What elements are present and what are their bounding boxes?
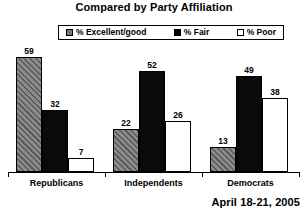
bar-republicans-excellent-good: 59 (16, 44, 42, 172)
bar-rect (68, 158, 94, 172)
axis-tick (105, 172, 106, 177)
bar-value: 7 (79, 147, 84, 157)
gray-hatched-swatch-icon (66, 29, 73, 36)
chart-title: Compared by Party Affiliation (0, 1, 308, 14)
category-label-independents: Independents (105, 178, 202, 189)
bar-democrats-fair: 49 (236, 44, 262, 172)
legend-label-poor: % Poor (247, 28, 276, 37)
bar-independents-excellent-good: 22 (113, 44, 139, 172)
bar-rect (236, 76, 262, 172)
axis-tick (8, 172, 9, 177)
bar-value: 26 (173, 110, 182, 120)
legend-label-excellent-good: % Excellent/good (76, 28, 146, 37)
legend-item-fair: % Fair (174, 28, 210, 37)
bar-democrats-poor: 38 (262, 44, 288, 172)
category-label-republicans: Republicans (8, 178, 105, 189)
category-label-democrats: Democrats (202, 178, 299, 189)
legend-item-excellent-good: % Excellent/good (66, 28, 146, 37)
bar-independents-fair: 52 (139, 44, 165, 172)
bar-rect (42, 110, 68, 172)
bar-rect (210, 147, 236, 172)
bar-rect (139, 71, 165, 172)
bar-rect (113, 129, 139, 172)
bar-republicans-fair: 32 (42, 44, 68, 172)
bar-value: 32 (50, 99, 59, 109)
bar-value: 22 (121, 118, 130, 128)
bar-rect (16, 57, 42, 172)
bar-rect (262, 98, 288, 172)
bar-value: 38 (270, 87, 279, 97)
bar-democrats-excellent-good: 13 (210, 44, 236, 172)
bar-independents-poor: 26 (165, 44, 191, 172)
plot-area: 59 32 7 22 52 (0, 44, 308, 173)
bar-value: 13 (218, 136, 227, 146)
black-solid-swatch-icon (174, 29, 181, 36)
bar-rect (165, 121, 191, 172)
axis-tick (299, 172, 300, 177)
bar-republicans-poor: 7 (68, 44, 94, 172)
x-axis-line (8, 172, 300, 173)
bar-value: 59 (24, 46, 33, 56)
legend-item-poor: % Poor (237, 28, 276, 37)
white-outline-swatch-icon (237, 29, 244, 36)
bar-value: 49 (244, 65, 253, 75)
survey-date-annotation: April 18-21, 2005 (211, 196, 300, 208)
bar-chart: Compared by Party Affiliation % Excellen… (0, 0, 308, 213)
axis-tick (202, 172, 203, 177)
legend-label-fair: % Fair (184, 28, 210, 37)
chart-legend: % Excellent/good % Fair % Poor (58, 25, 284, 40)
bar-value: 52 (147, 60, 156, 70)
